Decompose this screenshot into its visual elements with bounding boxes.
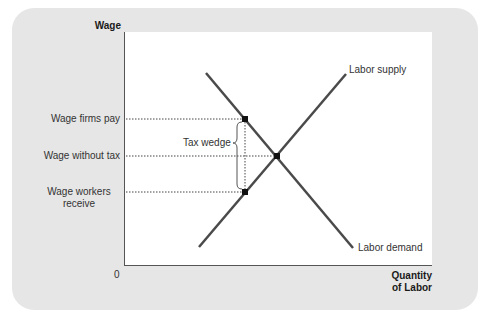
label-wage-workers-receive: Wage workers receive — [38, 186, 120, 210]
x-axis-label: Quantity of Labor — [391, 270, 432, 294]
x-axis-label-line2: of Labor — [391, 282, 432, 294]
label-wage-firms-pay: Wage firms pay — [51, 113, 120, 125]
labor-supply-label: Labor supply — [349, 64, 406, 76]
labor-supply-curve — [199, 74, 346, 247]
point-equilibrium — [274, 153, 280, 159]
x-axis-label-line1: Quantity — [391, 270, 432, 282]
labor-demand-curve — [206, 73, 353, 248]
point-workers-receive — [242, 189, 248, 195]
origin-label: 0 — [114, 269, 120, 281]
labor-demand-label: Labor demand — [358, 242, 423, 254]
label-wage-without-tax: Wage without tax — [44, 150, 120, 162]
y-axis-label: Wage — [95, 20, 121, 32]
point-firms-pay — [242, 116, 248, 122]
label-wage-workers-receive-line2: receive — [38, 198, 120, 210]
label-wage-workers-receive-line1: Wage workers — [38, 186, 120, 198]
tax-wedge-label: Tax wedge — [183, 137, 231, 149]
